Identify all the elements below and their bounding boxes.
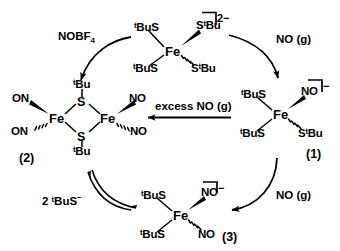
three-ligand-upper-nitrosyl: NO bbox=[201, 187, 218, 199]
excess-no-arrow-label: excess NO (g) bbox=[155, 101, 232, 113]
two-ligand-upper-left-nitrosyl: ON bbox=[12, 93, 29, 105]
nobf4-arrow-label: NOBF4 bbox=[58, 31, 95, 45]
two-ligand-lower-right-nitrosyl: NO bbox=[130, 126, 147, 138]
two-ligand-upper-right-nitrosyl: NO bbox=[129, 93, 146, 105]
one-charge-label: − bbox=[323, 81, 329, 92]
three-metal-center: Fe bbox=[173, 209, 188, 222]
thiolate-equilibrium-label-charge: − bbox=[77, 193, 82, 202]
two-metal-center-right: Fe bbox=[100, 112, 115, 125]
no-gas-arrow-bottom-label: NO (g) bbox=[276, 190, 311, 202]
two-bridge-tbu-lower: ᵗBu bbox=[73, 146, 90, 158]
top-metal-center: Fe bbox=[165, 45, 180, 58]
two-ligand-lower-left-nitrosyl: ON bbox=[11, 126, 28, 138]
three-charge-label: − bbox=[218, 183, 224, 194]
thiolate-equilibrium-label-text: 2 ᵗBuS bbox=[42, 195, 77, 207]
nobf4-arrow-label-subscript: 4 bbox=[91, 36, 95, 45]
one-ligand-upper-left: ᵗBuS bbox=[241, 89, 266, 101]
top-charge-label: 2− bbox=[217, 13, 230, 24]
top-ligand-lower-right: SᵗBu bbox=[191, 63, 216, 75]
structure-one-label: (1) bbox=[306, 148, 321, 161]
one-metal-center: Fe bbox=[273, 108, 288, 121]
one-ligand-nitrosyl: NO bbox=[301, 86, 318, 98]
nobf4-arrow-label-text: NOBF bbox=[58, 30, 91, 42]
thiolate-equilibrium-label: 2 ᵗBuS− bbox=[42, 194, 82, 207]
two-bridge-sulfur-upper: S bbox=[77, 96, 85, 109]
top-ligand-upper-left: ᵗBuS bbox=[134, 22, 159, 34]
two-bridge-sulfur-lower: S bbox=[77, 131, 85, 144]
two-bridge-tbu-upper: ᵗBu bbox=[73, 79, 90, 91]
one-ligand-lower-right: SᵗBu bbox=[298, 128, 323, 140]
structure-three-label: (3) bbox=[222, 231, 237, 244]
one-ligand-lower-left: ᵗBuS bbox=[240, 128, 265, 140]
no-gas-arrow-top-path bbox=[229, 35, 278, 78]
structure-two-label: (2) bbox=[19, 152, 34, 165]
no-gas-arrow-bottom-path bbox=[232, 158, 277, 210]
three-ligand-lower-nitrosyl: NO bbox=[198, 229, 215, 241]
two-metal-center-left: Fe bbox=[49, 112, 64, 125]
three-ligand-lower-left: ᵗBuS bbox=[140, 229, 165, 241]
reaction-scheme: ᵗBuS SᵗBu Fe ᵗBuS SᵗBu 2− ᵗBuS NO Fe ᵗBu… bbox=[0, 0, 340, 251]
thiolate-equilibrium-arrow-path bbox=[88, 170, 136, 210]
top-ligand-lower-left: ᵗBuS bbox=[133, 63, 158, 75]
no-gas-arrow-top-label: NO (g) bbox=[276, 34, 311, 46]
three-ligand-upper-left: ᵗBuS bbox=[141, 190, 166, 202]
